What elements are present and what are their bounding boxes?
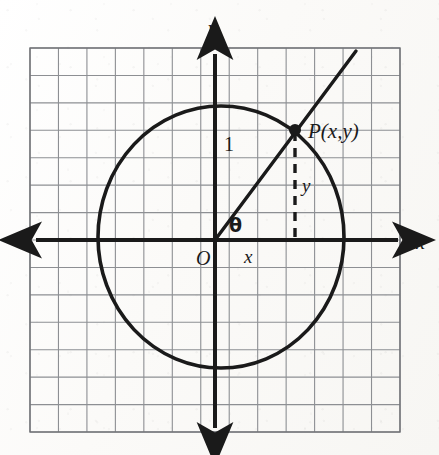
y-component-label: y	[302, 176, 310, 195]
point-p-label: P(x,y)	[308, 121, 359, 142]
terminal-ray	[215, 51, 356, 240]
angle-theta-label: θ	[229, 216, 242, 235]
unit-circle-outline	[98, 106, 344, 368]
point-p-marker	[289, 124, 301, 136]
x-component-label: x	[244, 247, 252, 266]
unit-circle-figure: y x O 1 θ x y P(x,y)	[0, 0, 439, 455]
radius-length-label: 1	[224, 134, 234, 154]
y-axis-label: y	[208, 18, 217, 38]
x-axis-label: x	[416, 232, 425, 252]
origin-label: O	[196, 248, 210, 268]
diagram-canvas	[0, 0, 439, 455]
